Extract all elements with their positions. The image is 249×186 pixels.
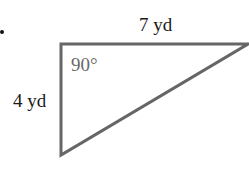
right-angle-label: 90°	[71, 55, 98, 74]
left-side-label: 4 yd	[13, 91, 46, 110]
top-side-label: 7 yd	[139, 15, 172, 34]
